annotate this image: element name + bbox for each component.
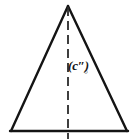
triangle-left-side	[11, 6, 68, 131]
diagram-canvas: (c″)○	[0, 0, 140, 140]
altitude-label: (c″)○	[68, 59, 88, 76]
altitude-label-subscript: ○	[84, 69, 88, 76]
